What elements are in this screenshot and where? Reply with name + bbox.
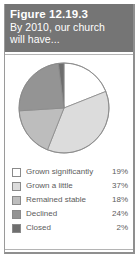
figure-title: Figure 12.19.3: [10, 8, 130, 21]
legend-swatch-icon: [12, 224, 21, 233]
legend-row: Remained stable18%: [12, 193, 128, 207]
legend-swatch-icon: [12, 210, 21, 219]
legend-swatch-icon: [12, 168, 21, 177]
legend-value: 19%: [111, 167, 128, 177]
legend-label: Grown a little: [26, 181, 111, 191]
legend-row: Grown a little37%: [12, 179, 128, 193]
legend-swatch-icon: [12, 196, 21, 205]
figure-subtitle-line-1: By 2010, our church: [10, 21, 130, 33]
legend-value: 24%: [111, 209, 128, 219]
legend-label: Remained stable: [26, 195, 111, 205]
legend-swatch-icon: [12, 182, 21, 191]
figure-subtitle: By 2010, our church will have...: [10, 21, 130, 45]
figure-header: Figure 12.19.3 By 2010, our church will …: [4, 4, 135, 52]
legend-row: Declined24%: [12, 207, 128, 221]
chart-legend: Grown significantly19%Grown a little37%R…: [5, 165, 134, 235]
legend-label: Closed: [26, 223, 111, 233]
figure-subtitle-line-2: will have...: [10, 33, 130, 45]
pie-chart: [16, 62, 122, 158]
legend-value: 18%: [111, 195, 128, 205]
legend-row: Grown significantly19%: [12, 165, 128, 179]
legend-label: Declined: [26, 209, 111, 219]
pie-chart-area: [5, 55, 134, 163]
figure-container: Figure 12.19.3 By 2010, our church will …: [4, 4, 135, 254]
legend-label: Grown significantly: [26, 167, 111, 177]
figure-body-panel: Grown significantly19%Grown a little37%R…: [4, 54, 135, 250]
legend-row: Closed2%: [12, 221, 128, 235]
pie-slice: [19, 63, 64, 110]
legend-value: 2%: [111, 223, 128, 233]
legend-value: 37%: [111, 181, 128, 191]
